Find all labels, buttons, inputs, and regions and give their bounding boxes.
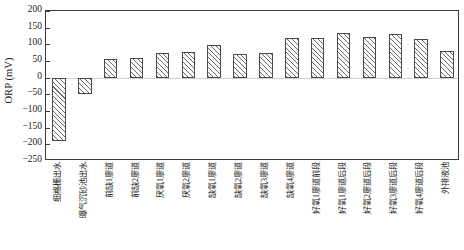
bar	[156, 53, 169, 78]
x-tick-label-text: 曝气沉砂池出水	[80, 162, 88, 218]
y-tick-mark	[46, 78, 50, 79]
x-tick-label-text: 前缺1廖道	[106, 162, 114, 198]
y-tick-mark	[46, 44, 50, 45]
bar	[414, 39, 427, 77]
y-tick-label: −100	[22, 105, 42, 115]
y-tick-label: 0	[37, 72, 42, 82]
bar	[440, 51, 453, 78]
x-tick-label: 好氧3廖道后段	[381, 162, 407, 248]
bar	[78, 78, 91, 94]
x-tick-label: 缺氧1廖道	[200, 162, 226, 248]
y-tick-mark	[46, 94, 50, 95]
x-tick-label-text: 细格栅出水	[54, 162, 62, 202]
plot-area	[45, 10, 459, 160]
orp-bar-chart: ORP (mV) 200150100500−50−100−150−200−250…	[0, 0, 464, 250]
y-tick-label: 200	[28, 5, 42, 15]
x-tick-label-text: 缺氧2廖道	[235, 162, 243, 198]
x-tick-label: 好氧4廖道后段	[407, 162, 433, 248]
x-tick-label-text: 好氧3廖道后段	[390, 162, 398, 214]
bar	[389, 34, 402, 77]
x-tick-label: 好氧1廖道后段	[330, 162, 356, 248]
y-tick-mark	[46, 144, 50, 145]
bar	[285, 38, 298, 78]
x-tick-label-text: 缺氧4廖道	[287, 162, 295, 198]
y-tick-mark	[46, 111, 50, 112]
bar	[52, 78, 65, 141]
x-axis-tick-labels: 细格栅出水曝气沉砂池出水前缺1廖道前缺2廖道厌氧1廖道厌氧2廖道缺氧1廖道缺氧2…	[45, 162, 459, 250]
y-tick-mark	[46, 11, 50, 12]
bar	[182, 52, 195, 77]
x-tick-label: 外排液池	[433, 162, 459, 248]
bar	[207, 45, 220, 78]
x-tick-label: 曝气沉砂池出水	[71, 162, 97, 248]
x-tick-label-text: 外排液池	[442, 162, 450, 194]
y-tick-label: 50	[33, 55, 43, 65]
x-tick-label-text: 缺氧1廖道	[209, 162, 217, 198]
bar	[104, 59, 117, 77]
y-axis-title-text: ORP (mV)	[3, 57, 14, 103]
bar	[233, 54, 246, 77]
bar	[130, 58, 143, 78]
y-tick-label: 150	[28, 22, 42, 32]
x-tick-label: 前缺2廖道	[123, 162, 149, 248]
y-tick-label: 100	[28, 39, 42, 49]
x-tick-label-text: 好氧1廖道前段	[313, 162, 321, 214]
y-tick-label: −150	[22, 122, 42, 132]
x-tick-label: 厌氧1廖道	[149, 162, 175, 248]
x-tick-label: 缺氧4廖道	[278, 162, 304, 248]
x-tick-label-text: 前缺2廖道	[132, 162, 140, 198]
x-tick-label: 前缺1廖道	[97, 162, 123, 248]
y-tick-mark	[46, 128, 50, 129]
x-tick-label-text: 厌氧1廖道	[157, 162, 165, 198]
y-tick-mark	[46, 28, 50, 29]
x-tick-label: 缺氧3廖道	[252, 162, 278, 248]
x-tick-label-text: 缺氧3廖道	[261, 162, 269, 198]
bar	[259, 53, 272, 77]
y-tick-label: −200	[22, 139, 42, 149]
bar	[311, 38, 324, 78]
y-tick-label: −250	[22, 155, 42, 165]
y-tick-mark	[46, 61, 50, 62]
y-tick-label: −50	[27, 89, 42, 99]
bar	[363, 37, 376, 78]
x-tick-label: 好氧1廖道前段	[304, 162, 330, 248]
x-tick-label: 细格栅出水	[45, 162, 71, 248]
x-tick-label-text: 好氧2廖道后段	[364, 162, 372, 214]
x-tick-label-text: 好氧1廖道后段	[339, 162, 347, 214]
x-tick-label: 好氧2廖道后段	[356, 162, 382, 248]
bars-layer	[46, 11, 458, 159]
bar	[337, 33, 350, 78]
x-tick-label: 厌氧2廖道	[174, 162, 200, 248]
y-axis-tick-labels: 200150100500−50−100−150−200−250	[14, 10, 42, 160]
x-tick-label-text: 厌氧2廖道	[183, 162, 191, 198]
x-tick-label: 缺氧2廖道	[226, 162, 252, 248]
x-tick-label-text: 好氧4廖道后段	[416, 162, 424, 214]
